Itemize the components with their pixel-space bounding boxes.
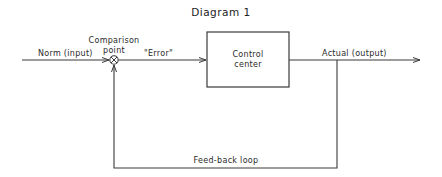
comparison-point-icon <box>110 56 118 64</box>
feedback-loop-line <box>114 60 337 168</box>
comparison-point-label: Comparison point <box>84 36 144 56</box>
control-center-label: Control center <box>207 50 289 70</box>
output-label: Actual (output) <box>322 50 387 58</box>
comparison-label-line1: Comparison <box>84 36 144 46</box>
error-label: "Error" <box>144 50 173 58</box>
control-center-line1: Control <box>207 50 289 60</box>
control-center-line2: center <box>207 60 289 70</box>
diagram-canvas <box>0 0 442 177</box>
feedback-loop-label: Feed-back loop <box>176 157 276 165</box>
comparison-label-line2: point <box>84 46 144 56</box>
